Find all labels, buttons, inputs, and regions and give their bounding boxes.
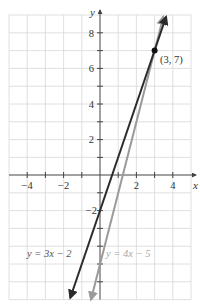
y-tick-label-8: 8: [89, 28, 94, 39]
y-tick-label-4: 4: [89, 99, 95, 110]
line-label-4x-minus-5: y = 4x − 5: [105, 248, 151, 259]
intersection-point-label: (3, 7): [160, 54, 183, 66]
y-tick-label-2: 2: [89, 134, 94, 145]
y-axis-label: y: [89, 6, 95, 18]
x-axis-label: x: [192, 179, 198, 191]
x-tick-label-neg4: −4: [22, 180, 34, 191]
x-tick-label-2: 2: [134, 180, 139, 191]
line-label-3x-minus-2: y = 3x − 2: [26, 248, 72, 259]
line-graph: −4 −2 2 4 8 6 4 2 −2 x y (3, 7) y = 3x −…: [0, 0, 200, 304]
y-tick-label-neg2: −2: [86, 205, 97, 216]
y-tick-label-6: 6: [89, 63, 94, 74]
intersection-point: [152, 48, 158, 54]
x-tick-label-neg2: −2: [58, 180, 69, 191]
x-tick-label-4: 4: [170, 180, 176, 191]
